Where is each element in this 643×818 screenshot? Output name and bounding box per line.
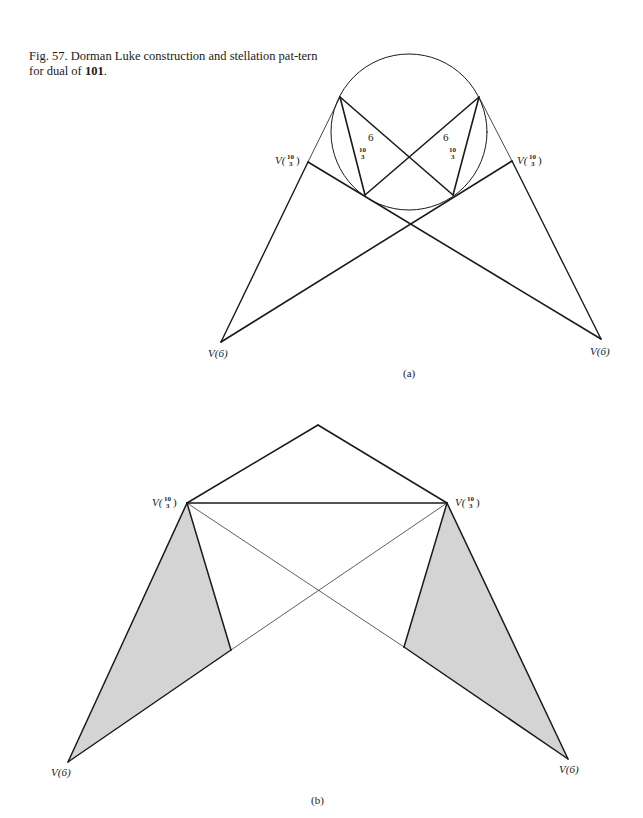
edge-apex-left [187, 425, 318, 503]
circumcircle [331, 54, 487, 210]
svg-text:): ) [476, 496, 480, 509]
diagonal-ur-ll [365, 97, 479, 195]
svg-text:3: 3 [531, 160, 535, 168]
angle-label-frac-right-den: 3 [451, 153, 455, 161]
vertex-label-b-right-lower: V(6) [559, 763, 579, 776]
shaded-region-right [404, 503, 568, 759]
svg-text:3: 3 [289, 160, 293, 168]
svg-text:V(: V( [517, 154, 529, 167]
diagram-canvas: 6 6 10 3 10 3 V( 10 3 ) V( 10 3 ) V(6) V… [0, 0, 643, 818]
shaded-region-left [68, 503, 231, 762]
vertex-label-a-right-upper: V( 10 3 ) [517, 153, 542, 168]
figure-a-label: (a) [403, 367, 416, 380]
thin-line-left [308, 97, 340, 162]
vertex-label-a-left-lower: V(6) [208, 347, 228, 360]
diagonal-ul-lr [340, 97, 453, 195]
vertex-label-b-left-lower: V(6) [51, 766, 71, 779]
figure-b [68, 425, 568, 762]
angle-label-six-left: 6 [368, 131, 374, 143]
vertex-label-a-left-upper: V( 10 3 ) [275, 153, 300, 168]
svg-text:3: 3 [469, 502, 473, 510]
svg-text:): ) [538, 154, 542, 167]
angle-label-six-right: 6 [443, 131, 449, 143]
figure-a [221, 54, 601, 342]
vertex-label-b-right-upper: V( 10 3 ) [455, 495, 480, 510]
thin-line-right [479, 97, 512, 161]
vertex-label-a-right-lower: V(6) [590, 345, 610, 358]
figure-b-label: (b) [311, 794, 324, 807]
edge-apex-right [318, 425, 447, 503]
svg-text:): ) [296, 154, 300, 167]
angle-label-frac-left-den: 3 [361, 153, 365, 161]
svg-text:): ) [173, 496, 177, 509]
svg-text:V(: V( [275, 154, 287, 167]
svg-text:V(: V( [152, 496, 164, 509]
svg-text:V(: V( [455, 496, 467, 509]
vertex-label-b-left-upper: V( 10 3 ) [152, 495, 177, 510]
edge-ur-lr [453, 97, 479, 195]
svg-text:3: 3 [166, 502, 170, 510]
